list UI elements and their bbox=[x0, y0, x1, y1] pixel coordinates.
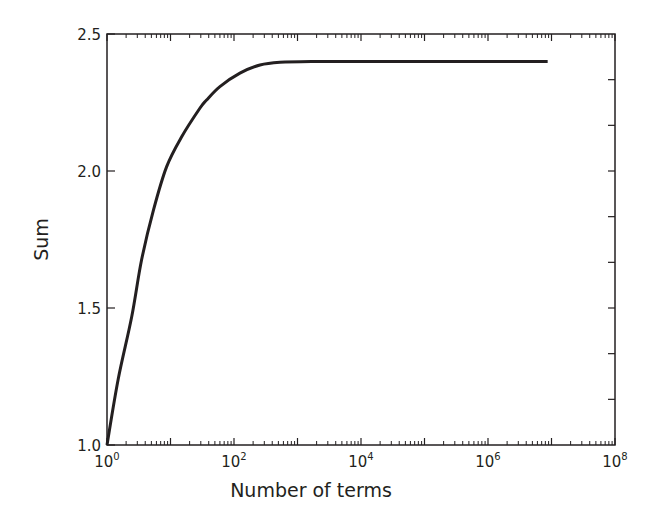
y-tick-label: 1.5 bbox=[77, 300, 101, 318]
y-tick-label: 2.0 bbox=[77, 163, 101, 181]
ticks-layer bbox=[107, 34, 615, 445]
series-line-sum bbox=[107, 61, 548, 445]
x-tick-label: 102 bbox=[221, 451, 246, 471]
x-tick-label-base: 10 bbox=[602, 453, 621, 471]
x-tick-label-exponent: 6 bbox=[494, 451, 500, 462]
x-tick-label-exponent: 2 bbox=[240, 451, 246, 462]
y-tick-label: 2.5 bbox=[77, 26, 101, 44]
x-tick-label: 104 bbox=[348, 451, 373, 471]
x-tick-label: 106 bbox=[475, 451, 500, 471]
x-tick-label-exponent: 0 bbox=[113, 451, 119, 462]
y-axis-label: Sum bbox=[30, 218, 52, 261]
x-tick-label-base: 10 bbox=[221, 453, 240, 471]
x-tick-label-base: 10 bbox=[475, 453, 494, 471]
plot-frame bbox=[107, 34, 615, 445]
x-tick-label-base: 10 bbox=[94, 453, 113, 471]
series-layer bbox=[107, 61, 548, 445]
x-axis-label: Number of terms bbox=[230, 479, 392, 501]
x-tick-label-exponent: 8 bbox=[621, 451, 627, 462]
x-tick-label-exponent: 4 bbox=[367, 451, 373, 462]
x-tick-label: 108 bbox=[602, 451, 627, 471]
y-tick-label: 1.0 bbox=[77, 437, 101, 455]
chart: 1001021041061081.01.52.02.5 Number of te… bbox=[0, 0, 662, 532]
x-tick-label-base: 10 bbox=[348, 453, 367, 471]
labels-layer: 1001021041061081.01.52.02.5 bbox=[77, 26, 628, 471]
